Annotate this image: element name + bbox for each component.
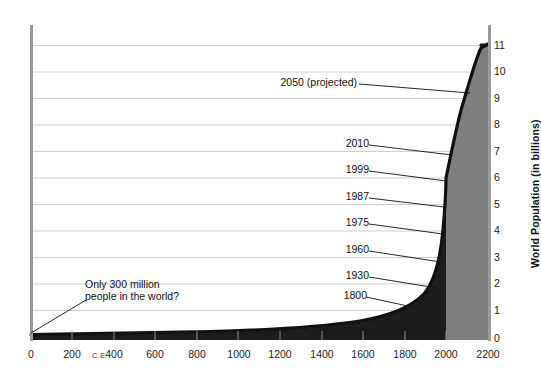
- x-tick-1400: 1400: [302, 349, 342, 360]
- x-tick-200: 200: [55, 349, 89, 360]
- x-tick-1200: 1200: [260, 349, 300, 360]
- x-tick-400: 400: [97, 349, 131, 360]
- y-axis-title: World Population (in billions): [529, 119, 541, 268]
- annotation-1800: 1800: [329, 289, 367, 301]
- x-tick-2200: 2200: [468, 349, 508, 360]
- annotation-1999: 1999: [331, 163, 369, 175]
- leader-1800: [366, 297, 417, 308]
- annotation-1987: 1987: [331, 190, 369, 202]
- y-tick-1: 1: [494, 305, 500, 316]
- y-tick-11: 11: [494, 40, 505, 51]
- x-tick-1000: 1000: [219, 349, 259, 360]
- leader-1999: [369, 171, 446, 181]
- y-tick-4: 4: [494, 225, 500, 236]
- annotation-2050: 2050 (projected): [255, 76, 357, 88]
- annotation-1960: 1960: [331, 243, 369, 255]
- annotation-300-million: Only 300 million people in the world?: [85, 278, 179, 302]
- annotation-1975: 1975: [331, 216, 369, 228]
- leader-1930: [369, 277, 437, 288]
- annotation-300-million-line1: Only 300 million: [85, 278, 179, 290]
- leader-1987: [369, 198, 444, 207]
- annotation-1930: 1930: [331, 269, 369, 281]
- x-tick-800: 800: [180, 349, 214, 360]
- y-tick-3: 3: [494, 252, 500, 263]
- x-tick-1600: 1600: [343, 349, 383, 360]
- y-tick-5: 5: [494, 199, 500, 210]
- y-tick-7: 7: [494, 146, 500, 157]
- leader-1960: [369, 251, 441, 262]
- x-tick-600: 600: [138, 349, 172, 360]
- y-tick-0: 0: [494, 333, 500, 344]
- y-tick-9: 9: [494, 93, 500, 104]
- annotation-2010: 2010: [331, 137, 369, 149]
- leader-2010: [369, 145, 452, 155]
- y-tick-2: 2: [494, 278, 500, 289]
- leader-2050: [359, 84, 470, 93]
- y-tick-6: 6: [494, 172, 500, 183]
- y-tick-8: 8: [494, 119, 500, 130]
- x-tick-1800: 1800: [385, 349, 425, 360]
- leader-note-300-million: [31, 300, 86, 333]
- x-tick-2000: 2000: [426, 349, 466, 360]
- y-tick-10: 10: [494, 66, 506, 77]
- annotation-300-million-line2: people in the world?: [85, 290, 179, 302]
- leader-1975: [369, 224, 443, 234]
- x-tick-0: 0: [21, 349, 41, 360]
